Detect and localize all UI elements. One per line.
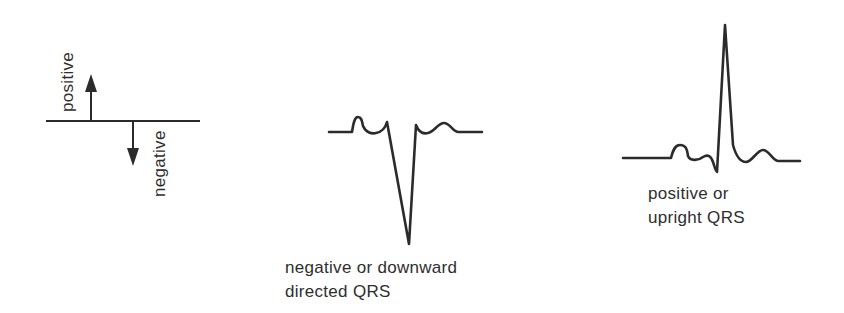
negative-qrs-caption-line1: negative or downward (285, 256, 457, 280)
positive-qrs-caption-line2: upright QRS (648, 206, 745, 230)
positive-qrs-caption-line1: positive or (648, 182, 745, 206)
positive-label: positive (58, 52, 78, 112)
down-arrow-icon (127, 121, 139, 166)
negative-qrs-waveform (329, 117, 482, 244)
positive-qrs-caption: positive or upright QRS (648, 182, 745, 230)
negative-label: negative (150, 130, 170, 197)
up-arrow-icon (85, 74, 97, 121)
negative-qrs-caption: negative or downward directed QRS (285, 256, 457, 304)
negative-qrs-caption-line2: directed QRS (285, 280, 457, 304)
positive-qrs-waveform (623, 25, 800, 172)
